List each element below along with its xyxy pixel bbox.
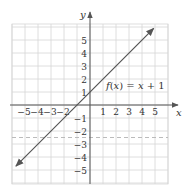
y-tick-label: −2: [74, 127, 87, 137]
function-label: f(x) = x + 1: [105, 80, 165, 91]
x-tick-label: 1: [100, 107, 106, 117]
y-tick-label: −4: [74, 153, 88, 163]
x-tick-label: −4: [30, 107, 44, 117]
y-tick-label: −3: [74, 140, 88, 150]
x-axis-label: x: [176, 107, 182, 118]
x-tick-label: 3: [126, 107, 132, 117]
x-tick-labels: −5−4−3−212345: [17, 107, 158, 117]
y-tick-label: 5: [81, 36, 87, 46]
x-tick-label: 4: [139, 107, 145, 117]
y-tick-label: 2: [81, 75, 87, 85]
y-axis-label: y: [79, 9, 86, 20]
x-tick-label: −5: [17, 107, 31, 117]
x-tick-label: −2: [56, 107, 69, 117]
x-tick-label: 5: [152, 107, 158, 117]
y-tick-label: −1: [74, 114, 87, 124]
x-tick-label: −3: [43, 107, 57, 117]
x-tick-label: 2: [113, 107, 119, 117]
y-tick-label: −5: [74, 166, 88, 176]
y-tick-label: 4: [81, 49, 87, 59]
function-graph: x y −5−4−3−212345 54321−1−2−3−4−5 f(x) =…: [0, 0, 190, 192]
y-tick-label: 3: [81, 62, 87, 72]
